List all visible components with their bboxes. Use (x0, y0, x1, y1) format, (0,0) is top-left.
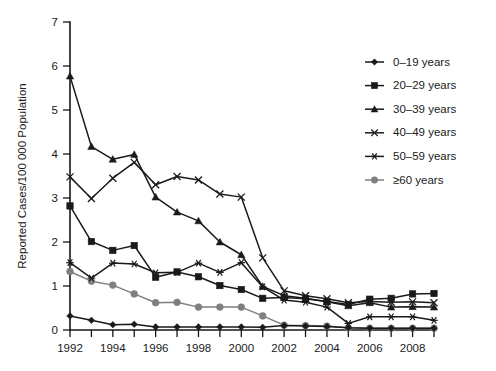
circle-marker (174, 299, 181, 306)
y-tick-label: 6 (52, 60, 58, 72)
x-tick-label: 2004 (314, 342, 340, 354)
x-tick-label: 1996 (143, 342, 169, 354)
legend-item-label: ≥60 years (393, 174, 444, 186)
circle-marker (131, 291, 138, 298)
legend-item-label: 20–29 years (393, 79, 457, 91)
legend-item: 20–29 years (365, 79, 457, 91)
legend-item-label: 0–19 years (393, 56, 450, 68)
y-tick-label: 2 (52, 236, 58, 248)
x-tick-label: 2000 (228, 342, 254, 354)
square-marker (431, 290, 437, 296)
cross-marker (131, 159, 138, 166)
legend-item: 30–39 years (365, 103, 457, 115)
series-square (67, 203, 437, 308)
square-marker (217, 282, 223, 288)
line-chart: Reported Cases/100 000 Population 012345… (0, 0, 496, 371)
square-marker (67, 203, 73, 209)
legend-item-label: 50–59 years (393, 150, 457, 162)
circle-marker (238, 304, 245, 311)
diamond-marker (371, 59, 377, 65)
cross-marker (259, 254, 266, 261)
x-tick-label: 2008 (400, 342, 426, 354)
triangle-marker (66, 72, 73, 79)
asterisk-marker (387, 314, 395, 320)
y-tick-label: 1 (52, 280, 58, 292)
circle-marker (67, 268, 74, 275)
x-tick-label: 1994 (100, 342, 126, 354)
y-tick-label: 7 (52, 16, 58, 28)
square-marker (260, 295, 266, 301)
legend-item: 50–59 years (365, 150, 457, 162)
cross-marker (88, 195, 95, 202)
square-marker (110, 247, 116, 253)
legend-item-label: 40–49 years (393, 126, 457, 138)
asterisk-marker (430, 317, 438, 323)
series-diamond (67, 313, 438, 332)
legend-item: 40–49 years (365, 126, 457, 138)
square-marker (409, 291, 415, 297)
asterisk-marker (409, 314, 417, 320)
legend-item: 0–19 years (365, 56, 450, 68)
y-axis-title: Reported Cases/100 000 Population (16, 83, 28, 268)
square-marker (131, 242, 137, 248)
triangle-marker (152, 193, 159, 200)
cross-marker (109, 175, 116, 182)
circle-marker (109, 282, 116, 289)
series-path (70, 316, 434, 328)
diamond-marker (67, 313, 74, 320)
series-circle (67, 268, 438, 332)
cross-marker (152, 181, 159, 188)
legend-item-label: 30–39 years (393, 103, 457, 115)
series-layer (66, 72, 438, 331)
y-tick-label: 4 (52, 148, 59, 160)
asterisk-marker (195, 260, 203, 266)
asterisk-marker (130, 261, 138, 267)
circle-marker (259, 313, 266, 320)
series-cross (67, 159, 438, 306)
asterisk-marker (366, 314, 374, 320)
circle-marker (216, 304, 223, 311)
x-tick-label: 2002 (271, 342, 297, 354)
x-tick-label: 2006 (357, 342, 383, 354)
asterisk-marker (216, 269, 224, 275)
square-marker (88, 238, 94, 244)
series-path (70, 271, 434, 328)
legend-item: ≥60 years (365, 174, 444, 186)
y-tick-label: 3 (52, 192, 58, 204)
circle-marker (152, 299, 159, 306)
asterisk-marker (371, 153, 378, 159)
y-axis-ticks: 01234567 (52, 16, 70, 336)
chart-figure: Reported Cases/100 000 Population 012345… (0, 0, 496, 371)
series-path (70, 162, 434, 302)
square-marker (371, 83, 377, 89)
y-tick-label: 0 (52, 324, 58, 336)
triangle-marker (88, 143, 95, 150)
triangle-marker (238, 251, 245, 258)
square-marker (238, 286, 244, 292)
diamond-marker (110, 321, 117, 328)
square-marker (195, 274, 201, 280)
x-axis-ticks: 199219941996199820002002200420062008 (57, 330, 434, 354)
triangle-marker (131, 151, 138, 158)
x-tick-label: 1992 (57, 342, 83, 354)
chart-legend: 0–19 years20–29 years30–39 years40–49 ye… (365, 56, 457, 186)
x-tick-label: 1998 (186, 342, 212, 354)
series-path (70, 76, 434, 307)
diamond-marker (131, 321, 138, 328)
circle-marker (195, 304, 202, 311)
diamond-marker (88, 317, 95, 324)
y-axis-title-text: Reported Cases/100 000 Population (16, 83, 28, 268)
y-tick-label: 5 (52, 104, 58, 116)
circle-marker (371, 177, 377, 183)
